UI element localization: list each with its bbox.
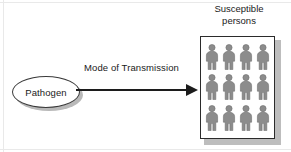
pathogen-ellipse: Pathogen — [12, 76, 80, 108]
arrow-head-icon — [186, 84, 198, 96]
arrow-line — [76, 89, 189, 91]
person-icon — [222, 105, 236, 131]
pathogen-label: Pathogen — [25, 87, 66, 98]
susceptible-persons-title: Susceptible persons — [196, 3, 282, 27]
person-icon — [256, 74, 270, 100]
person-icon — [222, 44, 236, 70]
person-icon — [239, 105, 253, 131]
transmission-arrow — [76, 84, 201, 96]
pathogen-node: Pathogen — [12, 76, 80, 108]
person-icon — [256, 105, 270, 131]
susceptible-persons-group — [200, 36, 280, 144]
person-icon — [205, 105, 219, 131]
susceptible-persons-box — [200, 36, 275, 139]
person-icon — [222, 74, 236, 100]
image-frame-left-edge — [3, 0, 4, 152]
susceptible-persons-title-line-2: persons — [196, 15, 282, 27]
infection-transmission-diagram: Pathogen Mode of Transmission Susceptibl… — [0, 0, 291, 152]
person-row — [204, 44, 271, 70]
person-icon — [205, 74, 219, 100]
person-icon — [239, 44, 253, 70]
person-row — [204, 105, 271, 131]
susceptible-persons-title-line-1: Susceptible — [196, 3, 282, 15]
person-icon — [239, 74, 253, 100]
mode-of-transmission-label: Mode of Transmission — [84, 62, 179, 73]
person-row — [204, 74, 271, 100]
person-icon — [205, 44, 219, 70]
image-frame-bottom-edge — [0, 149, 291, 150]
person-icon — [256, 44, 270, 70]
